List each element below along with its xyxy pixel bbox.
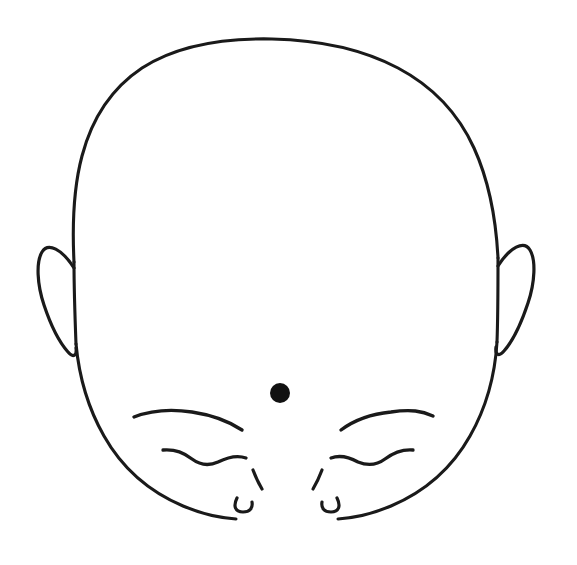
left-closed-eye [163,450,246,465]
landmark-point-marker[interactable] [270,383,290,403]
figure-canvas [0,0,577,565]
left-ear [38,247,76,355]
head-outline-left-temple [74,262,76,344]
right-eyebrow [341,411,433,430]
left-cheek-curve [235,498,252,512]
head-outline-right-jaw [338,342,497,519]
left-eyebrow [134,410,242,430]
head-outline-right-temple [497,258,498,342]
nose-left-tick [253,470,262,489]
infant-head-drawing [0,0,577,565]
right-closed-eye [331,450,413,465]
nose-right-tick [313,470,322,489]
head-outline-cranium [73,39,498,262]
head-outline-left-jaw [76,344,236,519]
right-ear [496,245,534,354]
right-cheek-curve [322,498,339,512]
